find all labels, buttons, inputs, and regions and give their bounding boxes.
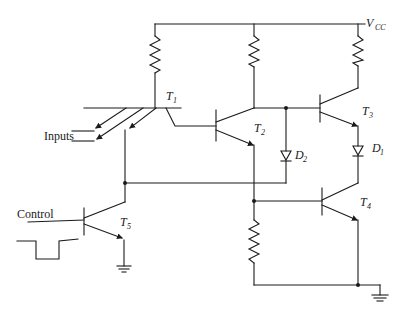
diode-d2 [281, 108, 291, 183]
resistor-r3 [353, 24, 363, 88]
t4-label: T 4 [360, 195, 371, 211]
d1-label: D 1 [371, 141, 384, 157]
ground-icon-right [372, 295, 388, 301]
svg-text:CC: CC [375, 23, 386, 32]
control-label: Control [17, 207, 54, 221]
resistor-r2 [249, 24, 259, 108]
t3-label: T 3 [362, 104, 373, 120]
t5-label: T 5 [120, 215, 131, 231]
resistor-r4 [249, 201, 259, 285]
svg-text:5: 5 [127, 222, 131, 231]
svg-text:V: V [366, 16, 375, 30]
inputs-label: Inputs [44, 129, 74, 143]
transistor-t5 [28, 183, 125, 266]
svg-text:3: 3 [368, 111, 373, 120]
svg-text:1: 1 [173, 96, 177, 105]
svg-text:1: 1 [380, 148, 384, 157]
svg-text:2: 2 [261, 128, 265, 137]
transistor-t2 [216, 108, 254, 201]
diode-d1 [353, 146, 363, 183]
svg-text:2: 2 [303, 155, 307, 164]
resistor-r1 [150, 24, 160, 108]
inputs-leads [72, 131, 94, 141]
t2-label: T 2 [254, 121, 265, 137]
control-pulse-waveform [17, 239, 78, 259]
transistor-t1 [84, 108, 216, 139]
circuit-schematic: V CC T 1 Inputs [0, 0, 412, 315]
ground-bus [254, 283, 380, 295]
transistor-t3 [320, 88, 358, 146]
d2-label: D 2 [294, 148, 307, 164]
ground-icon-left [117, 266, 131, 272]
svg-text:4: 4 [367, 202, 371, 211]
t1-label: T 1 [166, 89, 177, 105]
transistor-t4 [252, 183, 358, 285]
t2-collector-bus [254, 106, 320, 110]
vcc-label: V CC [366, 16, 386, 32]
control-bus [123, 181, 286, 185]
